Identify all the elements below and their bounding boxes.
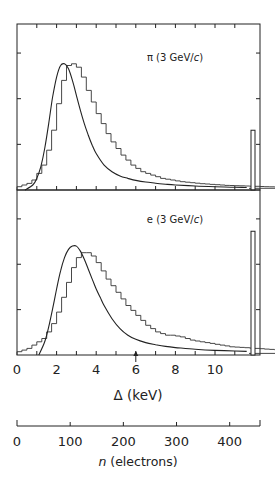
panel-label: e (3 GeV/c) xyxy=(147,214,203,225)
panel-frame xyxy=(17,190,260,355)
secondary-axis-title: n (electrons) xyxy=(98,454,177,469)
overflow-bar xyxy=(251,231,255,355)
n-tick-label: 200 xyxy=(111,434,136,449)
secondary-axis-electrons: 0100200300400 xyxy=(13,420,260,449)
n-variable: n xyxy=(98,454,106,469)
histogram xyxy=(17,253,275,355)
x-axis-title: Δ (keV) xyxy=(114,387,163,403)
panel-label-main: e (3 GeV/ xyxy=(147,214,195,225)
x-tick-label: 10 xyxy=(207,362,224,377)
x-tick-label: 8 xyxy=(171,362,179,377)
panel-label-close: ) xyxy=(199,214,203,225)
n-tick-label: 300 xyxy=(164,434,189,449)
n-units: (electrons) xyxy=(106,454,177,469)
n-tick-label: 0 xyxy=(13,434,21,449)
x-tick-label: 6 xyxy=(132,362,140,377)
overflow-bar xyxy=(251,130,255,190)
panel-label: π (3 GeV/c) xyxy=(147,52,203,63)
panel-pion: π (3 GeV/c) xyxy=(17,24,275,190)
x-tick-label: 2 xyxy=(52,362,60,377)
x-tick-label: 4 xyxy=(92,362,100,377)
panel-electron: e (3 GeV/c) xyxy=(17,190,275,355)
marker-arrow-icon xyxy=(133,351,138,356)
panel-label-close: ) xyxy=(199,52,203,63)
theory-curve xyxy=(39,246,247,355)
panel-label-main: π (3 GeV/ xyxy=(147,52,194,63)
n-tick-label: 400 xyxy=(217,434,242,449)
panel-frame xyxy=(17,24,260,190)
theory-curve xyxy=(25,64,247,190)
n-tick-label: 100 xyxy=(58,434,83,449)
x-tick-label: 0 xyxy=(13,362,21,377)
energy-loss-chart: π (3 GeV/c) e (3 GeV/c) 0246810 Δ (keV) … xyxy=(0,0,275,487)
